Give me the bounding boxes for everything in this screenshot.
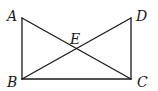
label-b: B	[6, 74, 17, 90]
geometry-diagram: A D E B C	[0, 0, 158, 91]
label-c: C	[137, 74, 148, 90]
label-a: A	[5, 8, 17, 24]
label-e: E	[69, 31, 80, 47]
label-d: D	[135, 8, 147, 24]
